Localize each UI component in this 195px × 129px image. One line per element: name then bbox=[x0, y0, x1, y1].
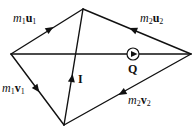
label-m2u2: m2u2 bbox=[140, 11, 163, 26]
label-q: Q bbox=[128, 62, 137, 76]
label-m2v2: m2v2 bbox=[128, 93, 151, 108]
diagonal-impulse bbox=[64, 9, 83, 125]
label-m1v1: m1v1 bbox=[2, 81, 25, 96]
arrow-m2v2-icon bbox=[117, 88, 127, 98]
label-impulse: I bbox=[78, 72, 83, 86]
edge-m2u2 bbox=[83, 9, 191, 54]
momentum-diagram: m1u1 m2u2 m1v1 m2v2 I Q bbox=[0, 0, 195, 129]
arrow-m2u2-icon bbox=[128, 25, 138, 35]
label-m1u1: m1u1 bbox=[13, 11, 36, 26]
